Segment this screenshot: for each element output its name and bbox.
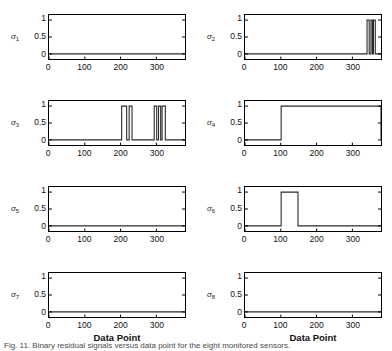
subplot-1: σ100.510100200300: [0, 0, 196, 86]
y-axis-label-3: σ3: [11, 118, 19, 128]
x-tick-label: 0: [242, 62, 247, 72]
y-tick-label: 0: [237, 307, 242, 317]
subplot-4: σ400.510100200300: [196, 86, 392, 172]
x-tick-label: 0: [242, 320, 247, 330]
figure-caption: Fig. 11. Binary residual signals versus …: [4, 341, 388, 351]
x-tick-label: 300: [150, 148, 164, 158]
y-tick-label: 0: [41, 221, 46, 231]
y-axis-label-subscript: 6: [212, 208, 215, 214]
y-tick-label: 0.5: [34, 117, 46, 127]
y-tick-labels-4: 00.51: [218, 100, 242, 146]
x-tick-label: 300: [150, 62, 164, 72]
signal-polyline: [49, 106, 185, 140]
x-tick-labels-4: 0100200300: [244, 148, 384, 160]
y-axis-label-subscript: 1: [16, 36, 19, 42]
signal-polyline: [245, 192, 381, 226]
x-tick-labels-6: 0100200300: [244, 234, 384, 246]
y-tick-label: 0.5: [230, 31, 242, 41]
y-axis-label-subscript: 4: [212, 122, 215, 128]
x-tick-label: 100: [273, 320, 287, 330]
x-tick-label: 0: [242, 234, 247, 244]
signal-trace-6: [245, 187, 381, 231]
signal-trace-7: [49, 273, 185, 317]
signal-polyline: [245, 20, 381, 54]
x-tick-label: 0: [242, 148, 247, 158]
subplot-7: σ700.510100200300Data Point: [0, 258, 196, 340]
y-tick-label: 1: [41, 13, 46, 23]
y-tick-label: 1: [41, 271, 46, 281]
x-tick-label: 0: [46, 148, 51, 158]
y-tick-labels-3: 00.51: [22, 100, 46, 146]
x-tick-label: 100: [77, 320, 91, 330]
y-tick-label: 1: [237, 271, 242, 281]
y-tick-labels-7: 00.51: [22, 272, 46, 318]
signal-trace-8: [245, 273, 381, 317]
y-tick-label: 1: [237, 185, 242, 195]
x-tick-labels-2: 0100200300: [244, 62, 384, 74]
x-tick-label: 300: [150, 320, 164, 330]
x-tick-label: 300: [346, 148, 360, 158]
signal-trace-1: [49, 15, 185, 59]
x-tick-label: 200: [114, 320, 128, 330]
plot-area-4: [244, 100, 382, 146]
plot-area-3: [48, 100, 186, 146]
plot-area-7: [48, 272, 186, 318]
y-tick-label: 0.5: [230, 203, 242, 213]
x-tick-label: 300: [346, 320, 360, 330]
plot-area-1: [48, 14, 186, 60]
y-tick-labels-6: 00.51: [218, 186, 242, 232]
subplot-grid: σ100.510100200300σ200.510100200300σ300.5…: [0, 0, 392, 340]
y-tick-label: 0.5: [230, 117, 242, 127]
plot-area-6: [244, 186, 382, 232]
x-tick-label: 200: [310, 234, 324, 244]
y-axis-label-subscript: 2: [212, 36, 215, 42]
y-tick-label: 0: [237, 135, 242, 145]
y-axis-label-subscript: 3: [16, 122, 19, 128]
x-tick-label: 200: [310, 62, 324, 72]
y-axis-label-4: σ4: [207, 118, 215, 128]
y-tick-label: 0: [41, 307, 46, 317]
x-tick-label: 100: [273, 62, 287, 72]
y-tick-label: 0.5: [34, 289, 46, 299]
y-tick-label: 0: [237, 221, 242, 231]
y-tick-labels-5: 00.51: [22, 186, 46, 232]
x-tick-label: 100: [77, 234, 91, 244]
signal-trace-3: [49, 101, 185, 145]
x-tick-label: 200: [310, 320, 324, 330]
x-tick-label: 200: [114, 62, 128, 72]
x-tick-labels-3: 0100200300: [48, 148, 188, 160]
y-tick-label: 0.5: [230, 289, 242, 299]
y-tick-label: 1: [237, 13, 242, 23]
signal-trace-2: [245, 15, 381, 59]
subplot-2: σ200.510100200300: [196, 0, 392, 86]
x-tick-labels-5: 0100200300: [48, 234, 188, 246]
signal-polyline: [245, 106, 381, 140]
x-tick-label: 0: [46, 234, 51, 244]
y-axis-label-subscript: 8: [212, 294, 215, 300]
x-tick-label: 200: [114, 234, 128, 244]
y-tick-labels-1: 00.51: [22, 14, 46, 60]
y-tick-label: 0: [41, 49, 46, 59]
x-tick-labels-8: 0100200300: [244, 320, 384, 332]
subplot-8: σ800.510100200300Data Point: [196, 258, 392, 340]
y-tick-label: 1: [41, 99, 46, 109]
x-tick-label: 0: [46, 62, 51, 72]
subplot-6: σ600.510100200300: [196, 172, 392, 258]
x-tick-label: 300: [346, 62, 360, 72]
x-tick-label: 300: [346, 234, 360, 244]
y-axis-label-5: σ5: [11, 204, 19, 214]
figure-panel-grid: σ100.510100200300σ200.510100200300σ300.5…: [0, 0, 392, 351]
y-tick-labels-8: 00.51: [218, 272, 242, 318]
y-axis-label-8: σ8: [207, 290, 215, 300]
x-tick-label: 0: [46, 320, 51, 330]
y-axis-label-2: σ2: [207, 32, 215, 42]
y-tick-label: 1: [41, 185, 46, 195]
plot-area-5: [48, 186, 186, 232]
x-tick-label: 100: [77, 62, 91, 72]
signal-trace-5: [49, 187, 185, 231]
y-tick-label: 0.5: [34, 31, 46, 41]
y-axis-label-1: σ1: [11, 32, 19, 42]
y-tick-label: 0.5: [34, 203, 46, 213]
y-axis-label-subscript: 7: [16, 294, 19, 300]
x-tick-label: 200: [310, 148, 324, 158]
